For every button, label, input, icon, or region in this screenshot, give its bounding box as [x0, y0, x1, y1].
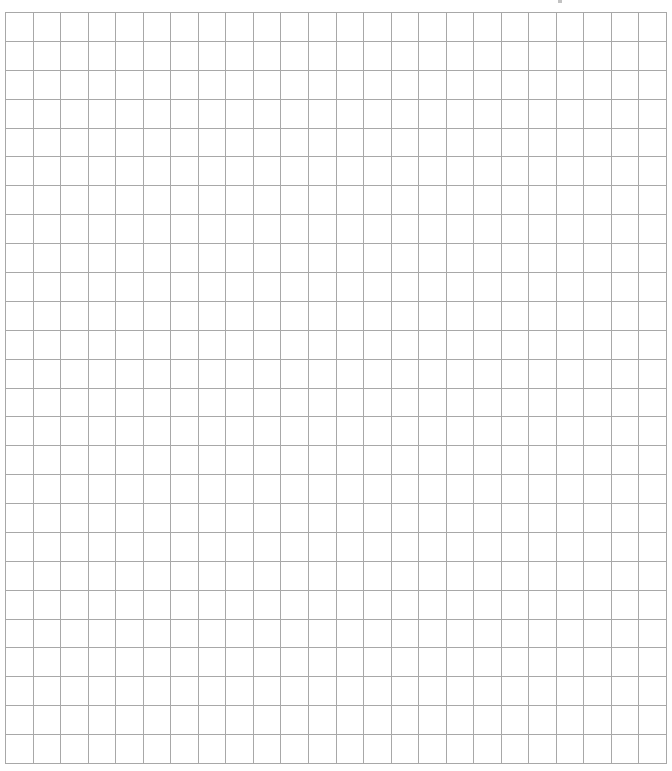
square-grid: [5, 12, 667, 764]
graph-paper-page: [0, 0, 672, 771]
page-mark: [558, 0, 562, 3]
grid-lines: [5, 12, 667, 764]
